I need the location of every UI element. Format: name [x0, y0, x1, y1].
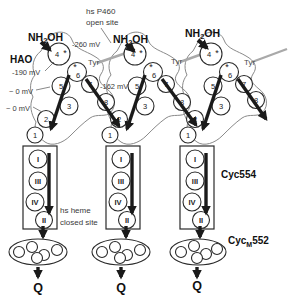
heme-6-label: 6 — [76, 71, 80, 80]
tyr-label-1: Tyr — [88, 58, 99, 67]
cyc554-column-2: I III IV II Q — [92, 146, 150, 295]
cyc-heme-III-label: III — [118, 177, 124, 186]
substrate-label-1: NH2OH — [28, 31, 63, 45]
heme-1-label: 1 — [33, 131, 37, 140]
leader-0mV-a — [36, 87, 50, 90]
heme-3-label: 3 — [67, 102, 71, 111]
substrate-label-3: NH2OH — [185, 27, 220, 41]
open-site-label-line1: hs P460 — [86, 7, 116, 16]
leader-0mV-b — [33, 107, 42, 112]
membrane-heme-circle — [97, 247, 108, 258]
tyr-label-2: Tyr — [171, 57, 182, 66]
open-site-leader-line — [101, 28, 111, 43]
membrane-heme-circle — [212, 244, 223, 255]
potential-0mV-a: ~ 0 mV — [9, 87, 33, 96]
cyc-heme-II-label: II — [199, 216, 203, 225]
membrane-heme-circle — [135, 245, 146, 256]
heme-6-label: 6 — [228, 71, 232, 80]
subunit-1-hemes: 4 * * 6 5 7 3 8 2 1 — [27, 43, 115, 143]
potential-260mV: -260 mV — [72, 40, 100, 49]
cyc-heme-IV-label: IV — [114, 198, 121, 207]
cyc-heme-III-label: III — [192, 177, 198, 186]
open-site-label-line2: open site — [86, 18, 119, 27]
cyc-heme-II-label: II — [42, 216, 46, 225]
cyc-heme-I-label: I — [194, 155, 196, 164]
closed-site-label-line2: closed site — [60, 218, 98, 227]
membrane-heme-circle — [110, 242, 121, 253]
heme-4-asterisk: * — [139, 48, 143, 58]
quinone-label: Q — [33, 281, 43, 295]
heme-1-label: 1 — [186, 131, 190, 140]
heme-4-asterisk: * — [215, 48, 219, 58]
heme-3-label: 3 — [143, 102, 147, 111]
tyr-link-1-2 — [97, 53, 126, 63]
heme-4-asterisk: * — [63, 48, 67, 58]
heme-2-label: 2 — [44, 115, 48, 124]
cyc554-column-3: I III IV II Q — [170, 146, 226, 293]
cyc-heme-I-label: I — [120, 155, 122, 164]
potential-162mV: -162 mV — [100, 82, 128, 91]
potential-190mV: -190 mV — [12, 68, 40, 77]
substrate-label-2: NH2OH — [113, 33, 148, 47]
membrane-heme-circle — [189, 241, 200, 252]
closed-site-label-line1: hs heme — [60, 206, 91, 215]
membrane-heme-circle — [14, 247, 25, 258]
tyr-link-3-out — [252, 49, 287, 62]
quinone-label: Q — [192, 279, 202, 293]
cyc-heme-III-label: III — [35, 177, 41, 186]
membrane-heme-circle — [32, 253, 43, 264]
cycm552-label: CycM552 — [228, 235, 269, 248]
cyc554-label: Cyc554 — [221, 169, 256, 180]
quinone-label: Q — [116, 281, 126, 295]
membrane-heme-circle — [115, 253, 126, 264]
hao-electron-transfer-diagram: 4 * * 6 5 7 3 8 2 1 4 * * 6 5 7 3 8 2 1 — [0, 0, 296, 299]
membrane-heme-circle — [176, 247, 187, 258]
heme-4-label: 4 — [55, 50, 59, 59]
cyc-heme-IV-label: IV — [31, 198, 38, 207]
membrane-heme-circle — [52, 245, 63, 256]
cyc-heme-I-label: I — [37, 155, 39, 164]
potential-0mV-b: ~ 0 mV — [6, 104, 30, 113]
heme-6-label: 6 — [152, 71, 156, 80]
membrane-heme-circle — [27, 242, 38, 253]
cyc-heme-II-label: II — [125, 216, 129, 225]
hao-label: HAO — [10, 54, 32, 65]
cyc554-column-1: I III IV II Q — [9, 146, 67, 295]
heme-1-label: 1 — [108, 131, 112, 140]
heme-4-label: 4 — [207, 50, 211, 59]
leader-190mV — [45, 62, 54, 71]
cyc-heme-IV-label: IV — [188, 198, 195, 207]
heme-3-label: 3 — [219, 102, 223, 111]
tyr-label-3: Tyr — [244, 58, 255, 67]
membrane-heme-circle — [192, 253, 203, 264]
